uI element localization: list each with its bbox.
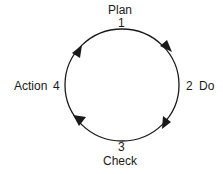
- arrowhead-do-to-check: [162, 116, 171, 129]
- stage-4-label: Action: [14, 80, 47, 93]
- stage-3-label: Check: [103, 155, 137, 168]
- stage-3-number: 3: [118, 141, 125, 154]
- stage-4-number: 4: [53, 80, 60, 93]
- stage-2-label: Do: [199, 80, 214, 93]
- stage-1-number: 1: [118, 17, 125, 30]
- stage-2-number: 2: [186, 80, 193, 93]
- arrowhead-check-to-action: [73, 115, 86, 126]
